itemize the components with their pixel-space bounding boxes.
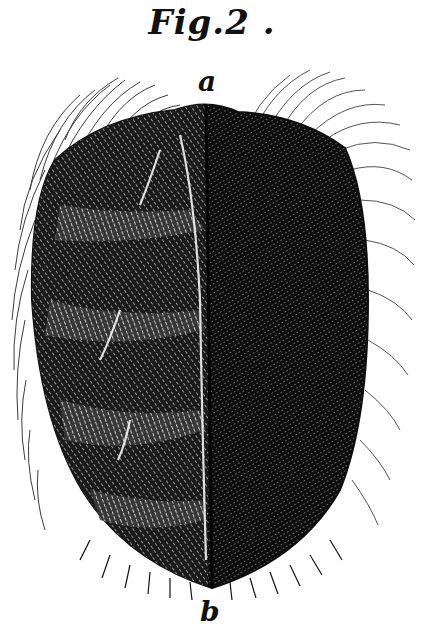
figure-plate: Fig.2 . [0, 0, 424, 635]
label-a: a [198, 68, 216, 96]
label-b: b [200, 598, 220, 626]
